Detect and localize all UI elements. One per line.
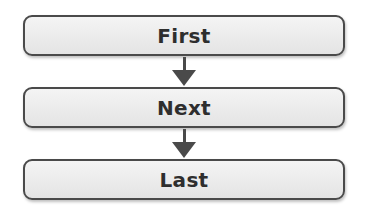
flow-node-next: Next: [23, 87, 345, 128]
node-label: Last: [160, 168, 209, 192]
flow-node-last: Last: [23, 159, 345, 200]
arrow-down-icon: [172, 129, 196, 159]
node-label: Next: [157, 96, 211, 120]
arrow-down-icon: [172, 57, 196, 87]
flow-node-first: First: [23, 15, 345, 56]
node-label: First: [157, 24, 210, 48]
